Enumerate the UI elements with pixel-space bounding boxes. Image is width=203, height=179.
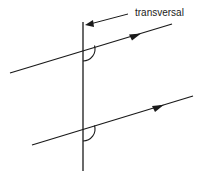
label-pointer-arrow xyxy=(90,14,128,24)
direction-arrowhead-icon xyxy=(152,105,164,112)
pointer-arrowhead-icon xyxy=(85,20,94,27)
parallel-line-bottom xyxy=(32,96,193,145)
transversal-diagram: transversal xyxy=(0,0,203,179)
transversal-label: transversal xyxy=(135,7,184,18)
parallel-line-top xyxy=(10,24,172,73)
direction-arrowhead-icon xyxy=(129,33,141,40)
